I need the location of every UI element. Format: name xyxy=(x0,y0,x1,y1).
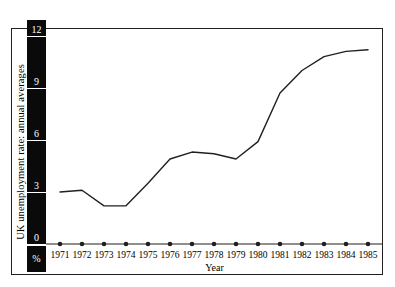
y-axis-tick-rule xyxy=(27,140,46,142)
x-axis-marker xyxy=(212,242,217,247)
y-axis-title-box: UK unemployment rate: annual averages xyxy=(11,28,28,275)
x-axis-label-1976: 1976 xyxy=(161,250,180,260)
x-axis-marker xyxy=(322,242,327,247)
x-axis-label-1984: 1984 xyxy=(337,250,356,260)
x-axis-marker xyxy=(366,242,371,247)
y-axis-tick-label-9: 9 xyxy=(27,77,46,87)
y-axis-tick-rule xyxy=(27,88,46,90)
x-axis-marker xyxy=(80,242,85,247)
line-chart-svg xyxy=(46,20,383,272)
x-axis-marker xyxy=(256,242,261,247)
y-axis-tick-rule xyxy=(27,244,46,246)
x-axis-label-1973: 1973 xyxy=(95,250,114,260)
x-axis-marker xyxy=(58,242,63,247)
x-axis-label-1977: 1977 xyxy=(183,250,202,260)
x-axis-label-1982: 1982 xyxy=(293,250,312,260)
plot-area xyxy=(46,20,383,272)
x-axis-label-1978: 1978 xyxy=(205,250,224,260)
y-axis-unit-label: % xyxy=(27,254,46,264)
y-axis-tick-rule xyxy=(27,192,46,194)
x-axis-marker xyxy=(190,242,195,247)
chart-figure: UK unemployment rate: annual averages 12… xyxy=(0,0,395,287)
x-axis-marker xyxy=(278,242,283,247)
y-axis-tick-label-12: 12 xyxy=(27,25,46,35)
x-axis-title: Year xyxy=(46,262,383,273)
y-axis-tick-label-3: 3 xyxy=(27,181,46,191)
y-axis-tick-rule xyxy=(27,36,46,38)
x-axis-label-1985: 1985 xyxy=(359,250,378,260)
x-axis-marker xyxy=(124,242,129,247)
x-axis-marker xyxy=(344,242,349,247)
x-axis-label-1972: 1972 xyxy=(73,250,92,260)
x-axis-label-1981: 1981 xyxy=(271,250,290,260)
y-axis-tick-label-6: 6 xyxy=(27,129,46,139)
y-axis-title: UK unemployment rate: annual averages xyxy=(14,64,25,240)
y-axis-tick-label-0: 0 xyxy=(27,233,46,243)
x-axis-label-1974: 1974 xyxy=(117,250,136,260)
x-axis-marker xyxy=(168,242,173,247)
data-series-line xyxy=(60,50,368,206)
x-axis-marker xyxy=(234,242,239,247)
x-axis-marker xyxy=(146,242,151,247)
x-axis-markers xyxy=(58,242,371,247)
x-axis-marker xyxy=(300,242,305,247)
x-axis-label-1975: 1975 xyxy=(139,250,158,260)
x-axis-label-1980: 1980 xyxy=(249,250,268,260)
x-axis-label-1983: 1983 xyxy=(315,250,334,260)
x-axis-marker xyxy=(102,242,107,247)
x-axis-label-1971: 1971 xyxy=(51,250,70,260)
x-axis-label-1979: 1979 xyxy=(227,250,246,260)
